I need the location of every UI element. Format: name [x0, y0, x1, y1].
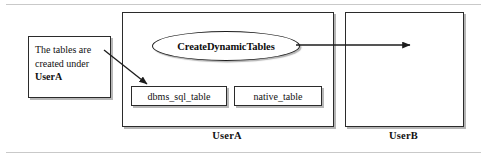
table-box-native-table-label: native_table	[254, 91, 303, 102]
table-box-dbms-sql-table-label: dbms_sql_table	[148, 91, 211, 102]
user-b-container	[345, 12, 464, 127]
callout-line-2: created under	[35, 57, 105, 71]
user-a-caption: UserA	[122, 130, 332, 141]
table-box-dbms-sql-table: dbms_sql_table	[131, 86, 227, 106]
callout-emphasis-user: UserA	[35, 70, 105, 84]
procedure-label: CreateDynamicTables	[177, 41, 274, 52]
callout-annotation-box: The tables are created under UserA	[28, 36, 111, 98]
top-divider-rule	[6, 4, 481, 5]
callout-line-1: The tables are	[35, 43, 105, 57]
procedure-ellipse-node: CreateDynamicTables	[152, 31, 300, 61]
diagram-canvas: CreateDynamicTables dbms_sql_table nativ…	[0, 0, 487, 163]
bottom-divider-rule	[6, 152, 481, 153]
user-a-container	[122, 12, 334, 127]
table-box-native-table: native_table	[234, 86, 322, 106]
callout-annotation-text: The tables are created under UserA	[35, 43, 105, 84]
user-b-caption: UserB	[345, 130, 462, 141]
